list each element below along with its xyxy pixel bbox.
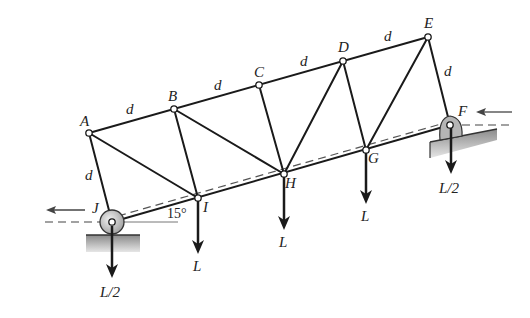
member-label-bc: d xyxy=(214,78,222,93)
member-label-ab: d xyxy=(126,102,134,117)
node-label-e: E xyxy=(424,16,433,31)
truss-members xyxy=(89,37,450,222)
load-label-g: L xyxy=(361,209,369,224)
truss-drawing xyxy=(0,0,530,318)
node-label-b: B xyxy=(168,89,177,104)
node-label-a: A xyxy=(80,114,89,129)
member-label-cd: d xyxy=(300,54,308,69)
node-label-g: G xyxy=(368,151,379,166)
load-label-i: L xyxy=(193,259,201,274)
node-label-h: H xyxy=(285,176,296,191)
member-label-de: d xyxy=(384,29,392,44)
load-label-j: L/2 xyxy=(100,285,120,300)
node-label-j: J xyxy=(92,201,99,216)
load-label-h: L xyxy=(279,235,287,250)
load-arrows xyxy=(106,128,457,278)
angle-label: 15° xyxy=(167,207,187,221)
node-label-d: D xyxy=(338,40,349,55)
truss-joints xyxy=(86,34,453,225)
member-label-ef: d xyxy=(444,64,452,79)
node-label-c: C xyxy=(254,65,264,80)
node-label-i: I xyxy=(203,200,208,215)
truss-diagram: A B C D E F G H I J d d d d d d 15° L L … xyxy=(0,0,530,318)
member-label-aj: d xyxy=(85,168,93,183)
node-label-f: F xyxy=(458,104,467,119)
load-label-f: L/2 xyxy=(439,181,459,196)
